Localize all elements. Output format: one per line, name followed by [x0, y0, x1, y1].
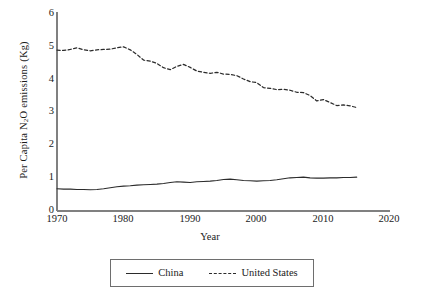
legend-swatch-china [126, 273, 153, 274]
x-axis-title-text: Year [200, 231, 219, 242]
legend-swatch-united-states [209, 273, 236, 274]
x-axis-title: Year [0, 231, 422, 242]
legend-label-china: China [158, 268, 183, 279]
chart-figure: Per Capita N2O emissions (Kg) 6 5 4 3 2 … [0, 0, 422, 304]
series-line-united-states [57, 47, 357, 108]
legend-label-united-states: United States [241, 268, 297, 279]
legend-item-united-states[interactable]: United States [209, 268, 297, 279]
series-line-china [57, 177, 357, 190]
chart-legend: China United States [110, 259, 314, 287]
legend-item-china[interactable]: China [126, 268, 183, 279]
